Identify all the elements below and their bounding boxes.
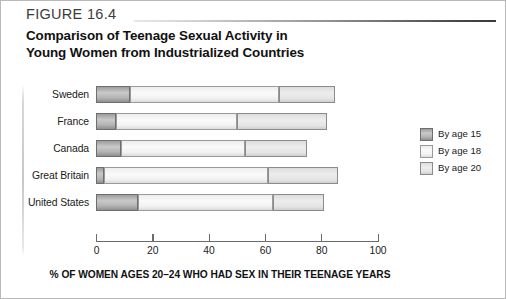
- bar-row: Canada: [0, 140, 400, 160]
- bar-row: France: [0, 113, 400, 133]
- bar-segment: [130, 86, 279, 103]
- x-axis-tick-label: 20: [133, 245, 173, 256]
- bar-track: [96, 113, 327, 133]
- bar-segment: [96, 113, 116, 130]
- bar-segment: [96, 140, 121, 157]
- x-axis-tick-label: 60: [245, 245, 285, 256]
- bar-row-label: France: [0, 116, 89, 127]
- bar-track: [96, 194, 324, 214]
- x-axis-tick: [152, 234, 153, 242]
- bar-segment: [104, 167, 267, 184]
- bar-segment: [268, 167, 338, 184]
- x-axis-tick: [96, 234, 97, 242]
- x-axis-tick: [265, 234, 266, 242]
- x-axis-tick-label: 100: [358, 245, 398, 256]
- legend-label: By age 20: [438, 162, 481, 173]
- bar-segment: [237, 113, 327, 130]
- bar-segment: [96, 86, 130, 103]
- bar-segment: [116, 113, 237, 130]
- legend-swatch-icon: [420, 162, 433, 175]
- bar-segment: [245, 140, 307, 157]
- x-axis-caption: % OF WOMEN AGES 20–24 WHO HAD SEX IN THE…: [0, 269, 440, 280]
- x-axis-tick: [321, 234, 322, 242]
- x-axis-tick: [378, 234, 379, 242]
- x-axis-line: [96, 241, 378, 242]
- legend-swatch-icon: [420, 128, 433, 141]
- bar-row-label: United States: [0, 197, 89, 208]
- legend-label: By age 18: [438, 145, 481, 156]
- bar-segment: [96, 194, 138, 211]
- bar-row-label: Sweden: [0, 89, 89, 100]
- bar-row: Great Britain: [0, 167, 400, 187]
- bar-segment: [273, 194, 324, 211]
- bar-row-label: Great Britain: [0, 170, 89, 181]
- bar-row: Sweden: [0, 86, 400, 106]
- bar-segment: [96, 167, 104, 184]
- x-axis-tick-label: 0: [77, 245, 117, 256]
- bar-segment: [121, 140, 245, 157]
- x-axis-tick: [209, 234, 210, 242]
- bar-row: United States: [0, 194, 400, 214]
- x-axis-tick-label: 80: [302, 245, 342, 256]
- bar-track: [96, 167, 338, 187]
- bar-track: [96, 140, 307, 160]
- bar-track: [96, 86, 335, 106]
- bar-segment: [138, 194, 273, 211]
- bar-row-label: Canada: [0, 143, 89, 154]
- bar-segment: [279, 86, 335, 103]
- legend-swatch-icon: [420, 145, 433, 158]
- x-axis-tick-label: 40: [189, 245, 229, 256]
- legend-label: By age 15: [438, 128, 481, 139]
